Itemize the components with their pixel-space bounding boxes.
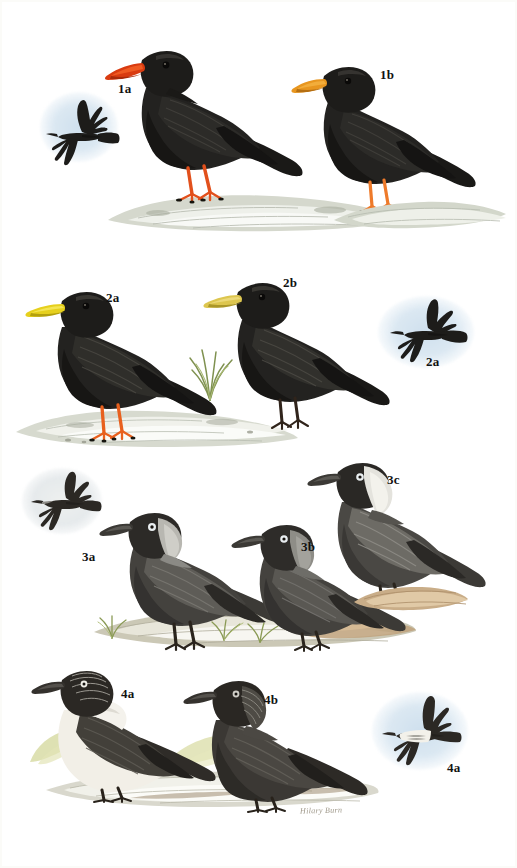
ground-rock-3c (350, 578, 470, 618)
label-4b: 4b (264, 693, 278, 706)
label-2a-flight: 2a (426, 355, 439, 368)
artist-signature: Hilary Burn (300, 805, 342, 815)
ground-rock-1b (330, 190, 510, 236)
label-4a: 4a (121, 687, 134, 700)
label-2b: 2b (283, 276, 297, 289)
label-1b: 1b (380, 68, 394, 81)
illustration-plate: 1a (0, 0, 517, 868)
figure-2b-perched (196, 262, 406, 434)
label-4a-flight: 4a (447, 761, 460, 774)
label-2a: 2a (106, 291, 119, 304)
figure-4b-perched (170, 668, 385, 812)
label-3c: 3c (387, 473, 400, 486)
